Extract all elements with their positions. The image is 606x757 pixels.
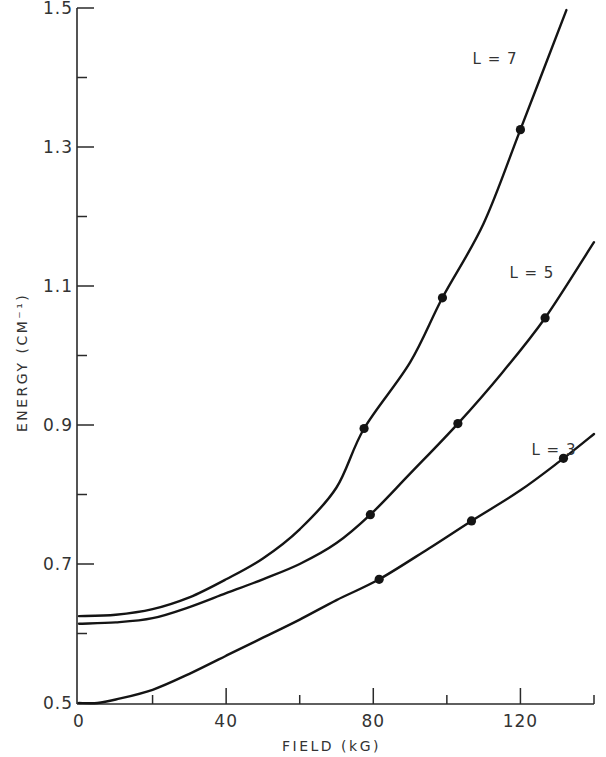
curve-label: L = 3: [531, 441, 576, 459]
x-tick-label: 80: [361, 711, 385, 731]
curve-line: [79, 10, 566, 616]
y-tick-label: 1.3: [43, 137, 73, 157]
y-tick-label: 0.5: [43, 693, 73, 713]
series-l7: L = 7: [79, 10, 566, 616]
data-point: [438, 293, 447, 302]
y-tick-label: 1.5: [43, 0, 73, 18]
x-tick-label: 40: [214, 711, 238, 731]
data-point: [516, 125, 525, 134]
y-tick-label: 1.1: [43, 276, 73, 296]
data-point: [366, 510, 375, 519]
data-point: [453, 419, 462, 428]
curve-label: L = 5: [509, 264, 554, 282]
curve-line: [79, 434, 594, 703]
x-axis-title: FIELD (kG): [282, 738, 381, 754]
data-series: L = 7L = 5L = 3: [79, 10, 594, 703]
x-tick-label: 0: [73, 711, 85, 731]
y-axis-ticks: 0.50.70.91.11.31.5: [43, 0, 94, 713]
data-point: [359, 424, 368, 433]
data-point: [467, 516, 476, 525]
y-axis-title: ENERGY (CM⁻¹): [14, 293, 30, 432]
y-tick-label: 0.9: [43, 415, 73, 435]
data-point: [375, 575, 384, 584]
series-l5: L = 5: [79, 242, 594, 624]
series-l3: L = 3: [79, 434, 594, 703]
curve-line: [79, 242, 594, 624]
x-tick-label: 120: [503, 711, 538, 731]
energy-vs-field-chart: 0.50.70.91.11.31.5 04080120 L = 7L = 5L …: [0, 0, 606, 757]
data-point: [540, 313, 549, 322]
y-tick-label: 0.7: [43, 554, 73, 574]
curve-label: L = 7: [473, 50, 518, 68]
x-axis-ticks: 04080120: [73, 688, 594, 731]
